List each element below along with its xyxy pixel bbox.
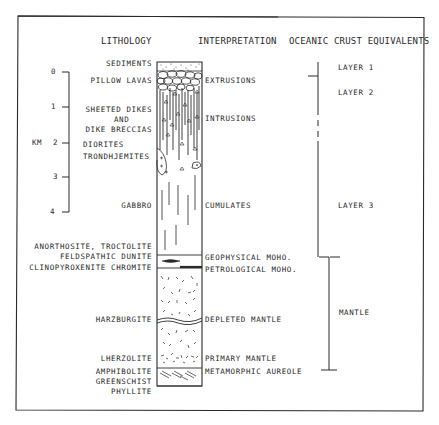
litho-greenschist: GREENSCHIST <box>96 378 152 386</box>
litho-sheeted-dikes: SHEETED DIKES <box>86 106 153 114</box>
header-oceanic-crust: OCEANIC CRUST EQUIVALENTS <box>289 37 429 46</box>
litho-lherzolite: LHERZOLITE <box>101 355 152 363</box>
scale-tick-3: 3 <box>53 173 58 181</box>
litho-diorites: DIORITES <box>83 141 124 149</box>
litho-and: AND <box>114 116 129 124</box>
oceanic-layer-3: LAYER 3 <box>338 202 374 210</box>
oceanic-layer-2: LAYER 2 <box>338 89 374 97</box>
interp-petrological-moho: PETROLOGICAL MOHO. <box>205 266 297 274</box>
litho-sediments: SEDIMENTS <box>106 60 152 68</box>
scale-tick-4: 4 <box>50 208 55 216</box>
scale-tick-0: 0 <box>51 68 56 76</box>
scale-unit: KM <box>32 139 42 147</box>
scale-tick-1: 1 <box>51 103 56 111</box>
litho-dike-breccias: DIKE BRECCIAS <box>86 126 153 134</box>
interp-geophysical-moho: GEOPHYSICAL MOHO. <box>205 254 292 262</box>
interp-extrusions: EXTRUSIONS <box>205 77 256 85</box>
interp-depleted-mantle: DEPLETED MANTLE <box>205 316 282 324</box>
litho-amphibolite: AMPHIBOLITE <box>96 368 152 376</box>
interp-cumulates: CUMULATES <box>205 202 251 210</box>
litho-gabbro: GABBRO <box>121 202 152 210</box>
oceanic-mantle: MANTLE <box>339 309 370 317</box>
interp-primary-mantle: PRIMARY MANTLE <box>205 355 277 363</box>
litho-clinopyroxenite-chromite: CLINOPYROXENITE CHROMITE <box>29 264 152 272</box>
litho-trondhjemites: TRONDHJEMITES <box>83 153 150 161</box>
interp-intrusions: INTRUSIONS <box>205 115 256 123</box>
litho-pillow-lavas: PILLOW LAVAS <box>91 77 152 85</box>
scale-tick-2: 2 <box>53 139 58 147</box>
litho-harzburgite: HARZBURGITE <box>96 316 152 324</box>
interp-metamorphic-aureole: METAMORPHIC AUREOLE <box>205 368 302 376</box>
litho-anorthosite-troctolite: ANORTHOSITE, TROCTOLITE <box>34 243 152 251</box>
header-interpretation: INTERPRETATION <box>198 37 277 46</box>
oceanic-layer-1: LAYER 1 <box>338 64 374 72</box>
litho-phyllite: PHYLLITE <box>111 388 152 396</box>
litho-feldspathic-dunite: FELDSPATHIC DUNITE <box>60 253 152 261</box>
header-lithology: LITHOLOGY <box>101 37 152 46</box>
